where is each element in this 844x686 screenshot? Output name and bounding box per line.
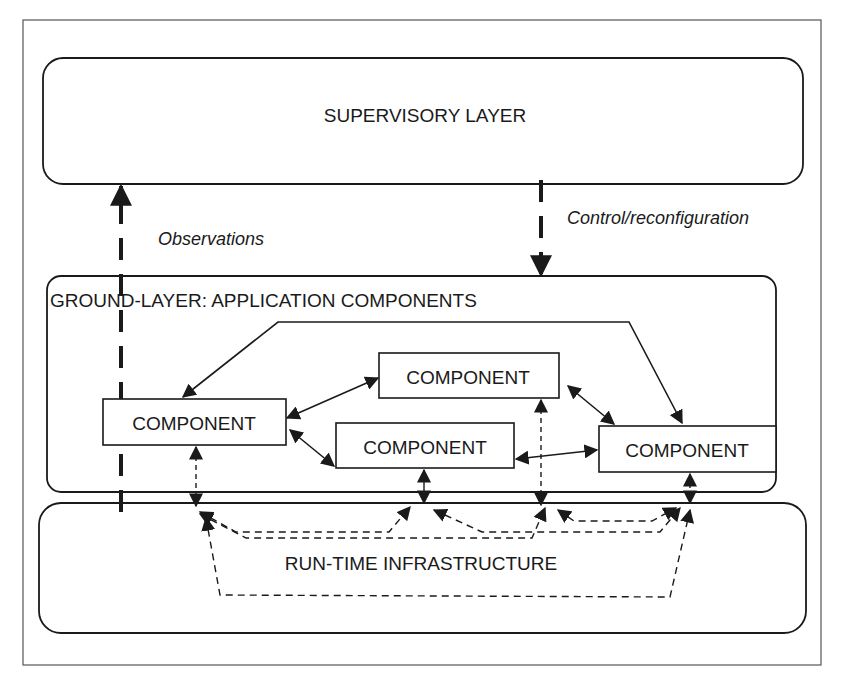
component-middle-label: COMPONENT — [363, 437, 487, 458]
runtime-layer: RUN-TIME INFRASTRUCTURE — [39, 503, 806, 633]
component-middle: COMPONENT — [336, 423, 514, 468]
component-left-label: COMPONENT — [132, 413, 256, 434]
observations-label: Observations — [158, 229, 264, 249]
component-right: COMPONENT — [599, 426, 776, 472]
component-top-middle: COMPONENT — [379, 353, 559, 398]
ground-layer-label: GROUND-LAYER: APPLICATION COMPONENTS — [50, 290, 477, 311]
component-left: COMPONENT — [103, 399, 286, 445]
supervisory-layer: SUPERVISORY LAYER — [43, 58, 803, 184]
architecture-diagram: SUPERVISORY LAYER GROUND-LAYER: APPLICAT… — [0, 0, 844, 686]
component-right-label: COMPONENT — [625, 440, 749, 461]
control-reconfiguration-label: Control/reconfiguration — [567, 208, 749, 228]
component-top-middle-label: COMPONENT — [406, 367, 530, 388]
runtime-layer-label: RUN-TIME INFRASTRUCTURE — [285, 553, 557, 574]
supervisory-layer-label: SUPERVISORY LAYER — [324, 105, 526, 126]
